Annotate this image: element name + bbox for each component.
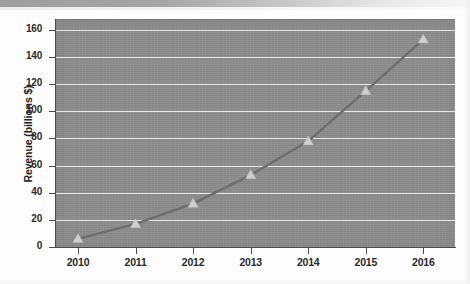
x-axis-tick-label: 2014 (288, 256, 328, 268)
plot-area (55, 19, 455, 247)
x-axis-tick (308, 248, 309, 254)
scan-artifact-edge-bottom (0, 279, 470, 284)
gridline (55, 138, 455, 139)
gridline (55, 30, 455, 31)
y-axis-tick (49, 220, 55, 221)
x-axis-tick (423, 248, 424, 254)
gridline (55, 166, 455, 167)
y-axis-tick-label: 20 (8, 213, 42, 224)
x-axis-tick-label: 2012 (173, 256, 213, 268)
scan-artifact-edge-right (464, 0, 470, 284)
x-axis-tick-label: 2011 (116, 256, 156, 268)
gridline (55, 84, 455, 85)
gridline (55, 193, 455, 194)
x-axis-tick-label: 2015 (346, 256, 386, 268)
gridline (55, 220, 455, 221)
x-axis-tick (366, 248, 367, 254)
y-axis-tick (49, 111, 55, 112)
scan-texture-overlay (55, 19, 455, 247)
plot-area-top-border (55, 19, 455, 20)
y-axis-tick (49, 166, 55, 167)
y-axis-tick (49, 193, 55, 194)
x-axis-tick (136, 248, 137, 254)
y-axis-tick (49, 84, 55, 85)
x-axis-tick (251, 248, 252, 254)
x-axis-tick-label: 2013 (231, 256, 271, 268)
gridline (55, 111, 455, 112)
x-axis-tick (193, 248, 194, 254)
y-axis-tick-label: 0 (8, 240, 42, 251)
y-axis-line (55, 19, 56, 248)
y-axis-tick (49, 247, 55, 248)
y-axis-tick (49, 30, 55, 31)
y-axis-tick (49, 57, 55, 58)
x-axis-line (55, 247, 456, 248)
y-axis-title: Revenue (billions $) (22, 54, 34, 214)
line-chart: 020406080100120140160 201020112012201320… (0, 0, 470, 284)
x-axis-tick (78, 248, 79, 254)
y-axis-tick-label: 160 (8, 23, 42, 34)
x-axis-tick-label: 2016 (403, 256, 443, 268)
gridline (55, 57, 455, 58)
y-axis-tick (49, 138, 55, 139)
x-axis-tick-label: 2010 (58, 256, 98, 268)
